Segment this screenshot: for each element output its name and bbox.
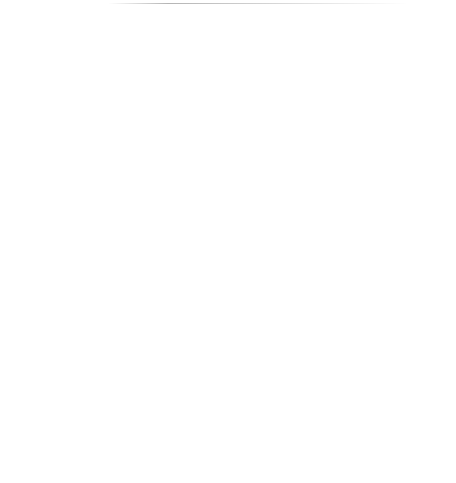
- rate-chart-canvas: [0, 250, 456, 483]
- index-chart-canvas: [0, 0, 456, 250]
- figure-rate-chart: [0, 250, 456, 483]
- figure-index-chart: [0, 0, 456, 250]
